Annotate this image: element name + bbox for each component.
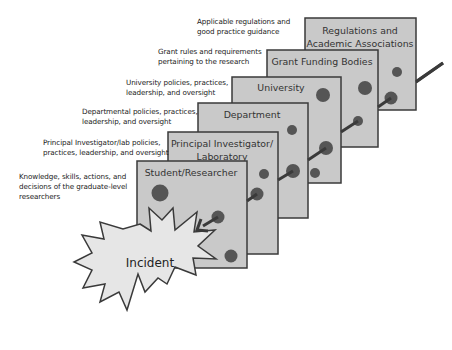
layer-title: Student/Researcher [145,167,238,178]
description-line: pertaining to the research [158,57,262,67]
description-line: Departmental policies, practices, [82,107,198,117]
description-department: Departmental policies, practices, leader… [82,107,198,127]
hole [152,185,169,202]
description-university: University policies, practices, leadersh… [126,78,228,98]
description-line: practices, leadership, and oversight [43,148,168,158]
layer-title: Grant Funding Bodies [271,56,372,67]
layer-title: Principal Investigator/ [171,138,274,149]
hole [287,125,297,135]
description-line: University policies, practices, [126,78,228,88]
hole [316,88,330,102]
description-line: Applicable regulations and [197,17,290,27]
description-line: good practice guidance [197,27,290,37]
description-line: leadership, and oversight [82,117,198,127]
layer-title: Academic Associations [306,38,413,49]
description-line: researchers [19,192,127,202]
hole [225,250,238,263]
description-regulations: Applicable regulations and good practice… [197,17,290,37]
hole [259,169,269,179]
description-line: Knowledge, skills, actions, and [19,172,127,182]
hole [358,81,372,95]
description-student-researcher: Knowledge, skills, actions, and decision… [19,172,127,202]
description-grant-funding: Grant rules and requirements pertaining … [158,47,262,67]
description-line: leadership, and oversight [126,88,228,98]
description-principal-investigator: Principal Investigator/lab policies, pra… [43,138,168,158]
description-line: Principal Investigator/lab policies, [43,138,168,148]
incident-label: Incident [126,256,175,270]
layer-title: Regulations and [322,25,398,36]
layer-title: Department [224,109,281,120]
description-line: decisions of the graduate-level [19,182,127,192]
hole [392,67,402,77]
hole [310,168,320,178]
layer-title: University [257,82,305,93]
description-line: Grant rules and requirements [158,47,262,57]
